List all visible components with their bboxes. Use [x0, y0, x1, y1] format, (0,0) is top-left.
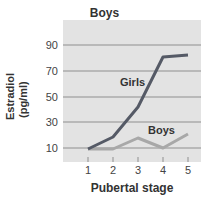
x-tick-3: 3 — [131, 164, 145, 176]
chart-lines — [0, 0, 209, 203]
x-tick-5: 5 — [181, 164, 195, 176]
x-tick-2: 2 — [106, 164, 120, 176]
x-axis-label: Pubertal stage — [63, 181, 201, 195]
boys-series-label: Boys — [148, 124, 175, 136]
x-tick-1: 1 — [81, 164, 95, 176]
x-tick-4: 4 — [156, 164, 170, 176]
girls-series-label: Girls — [120, 76, 145, 88]
